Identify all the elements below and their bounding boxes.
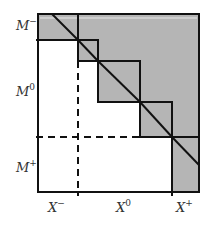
row-label-m-minus: M− [15,16,37,33]
block-matrix-diagram: M− M0 M+ X− X0 X+ [0,0,209,226]
col-label-x-plus: X+ [175,198,193,215]
row-label-m-plus: M+ [15,158,37,175]
col-label-x-zero: X0 [115,198,131,215]
col-label-x-minus: X− [47,198,65,215]
row-label-m-zero: M0 [15,82,35,99]
